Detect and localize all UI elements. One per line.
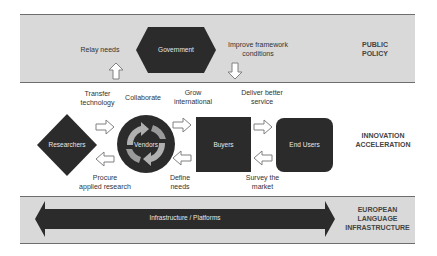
grow-international-label-1: Grow — [168, 88, 218, 97]
infrastructure-caption-2: LANGUAGE — [340, 214, 415, 223]
deliver-better-service-label-2: service — [232, 97, 292, 106]
end-users-label: End Users — [276, 141, 333, 148]
improve-framework-label-1: Improve framework — [218, 40, 298, 49]
infrastructure-label: Infrastructure / Platforms — [35, 214, 335, 221]
infrastructure-caption-1: EUROPEAN — [340, 205, 415, 214]
transfer-technology-label-2: technology — [75, 98, 120, 107]
define-needs-label-2: needs — [165, 182, 195, 191]
survey-market-label-2: market — [240, 182, 285, 191]
transfer-technology-label-1: Transfer — [75, 89, 120, 98]
define-needs-label-1: Define — [165, 173, 195, 182]
public-policy-caption-1: PUBLIC — [350, 40, 400, 49]
relay-needs-label: Relay needs — [68, 45, 132, 54]
grow-international-label-2: international — [168, 97, 218, 106]
right-arrow-icon — [95, 119, 115, 135]
left-arrow-icon — [172, 150, 192, 166]
infrastructure-caption-3: INFRASTRUCTURE — [340, 223, 415, 232]
procure-label-1: Procure — [75, 173, 135, 182]
vendors-label: Vendors — [117, 141, 175, 148]
down-arrow-icon — [227, 62, 243, 80]
public-policy-caption-2: POLICY — [350, 49, 400, 58]
innovation-caption-2: ACCELERATION — [348, 140, 418, 149]
right-arrow-icon — [253, 119, 273, 135]
government-label: Government — [136, 46, 216, 53]
researchers-label: Researchers — [37, 141, 97, 148]
improve-framework-label-2: conditions — [218, 49, 298, 58]
up-arrow-icon — [108, 62, 124, 80]
left-arrow-icon — [95, 151, 115, 167]
innovation-caption-1: INNOVATION — [348, 131, 418, 140]
procure-label-2: applied research — [75, 182, 135, 191]
left-arrow-icon — [253, 150, 273, 166]
collaborate-label: Collaborate — [118, 93, 168, 102]
right-arrow-icon — [172, 117, 192, 133]
survey-market-label-1: Survey the — [240, 173, 285, 182]
deliver-better-service-label-1: Deliver better — [232, 88, 292, 97]
buyers-label: Buyers — [196, 141, 251, 148]
